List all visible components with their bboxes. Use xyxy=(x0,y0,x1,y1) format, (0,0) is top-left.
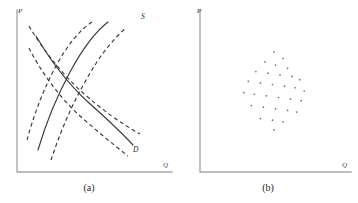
panel-b-axes xyxy=(200,10,351,172)
scatter-point xyxy=(282,121,284,123)
scatter-point xyxy=(254,93,256,95)
supply-curve-label: S xyxy=(141,13,145,21)
scatter-point xyxy=(290,98,292,100)
panel-b-plot xyxy=(179,0,358,203)
panel-b-y-axis-label: P xyxy=(197,8,201,15)
scatter-point xyxy=(273,129,275,131)
demand-curve-dashed-upper xyxy=(29,26,140,134)
scatter-point xyxy=(273,51,275,53)
scatter-point xyxy=(303,90,305,92)
scatter-point xyxy=(296,111,298,113)
panel-a-plot xyxy=(0,0,179,203)
panel-a: P Q S D (a) xyxy=(0,0,179,203)
scatter-point xyxy=(272,84,274,86)
panel-b: P Q (b) xyxy=(179,0,358,203)
scatter-point xyxy=(247,80,249,82)
scatter-point xyxy=(255,71,257,73)
scatter-point xyxy=(250,105,252,107)
scatter-point xyxy=(300,100,302,102)
panel-a-caption: (a) xyxy=(69,183,109,193)
scatter-point xyxy=(299,79,301,81)
supply-curve-dashed-left xyxy=(27,22,92,140)
panel-a-curves xyxy=(27,22,140,160)
scatter-point xyxy=(282,58,284,60)
scatter-point xyxy=(267,72,269,74)
scatter-point xyxy=(287,110,289,112)
panel-b-scatter-points xyxy=(243,51,305,130)
scatter-point xyxy=(278,97,280,99)
panel-b-caption: (b) xyxy=(248,183,288,193)
figure-supply-demand-and-scatter: P Q S D (a) P Q (b) xyxy=(0,0,358,203)
scatter-point xyxy=(243,92,245,94)
scatter-point xyxy=(260,82,262,84)
scatter-point xyxy=(263,106,265,108)
scatter-point xyxy=(294,87,296,89)
demand-curve-dashed-lower xyxy=(29,48,128,156)
scatter-point xyxy=(266,95,268,97)
scatter-point xyxy=(284,85,286,87)
panel-a-y-axis-label: P xyxy=(18,8,22,15)
supply-curve-dashed-right xyxy=(51,28,126,160)
scatter-point xyxy=(279,74,281,76)
panel-a-x-axis-label: Q xyxy=(163,162,168,169)
scatter-point xyxy=(287,67,289,69)
scatter-point xyxy=(272,119,274,121)
scatter-point xyxy=(275,64,277,66)
scatter-point xyxy=(260,118,262,120)
scatter-point xyxy=(264,61,266,63)
scatter-point xyxy=(291,76,293,78)
demand-curve-solid xyxy=(36,36,133,145)
scatter-point xyxy=(275,108,277,110)
demand-curve-label: D xyxy=(133,146,138,154)
panel-b-x-axis-label: Q xyxy=(342,162,347,169)
